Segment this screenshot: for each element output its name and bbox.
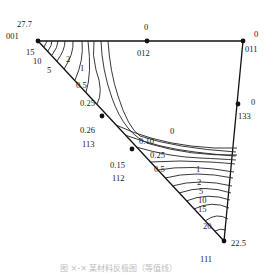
contour-label: 5: [47, 65, 51, 75]
index-133: 133: [238, 111, 251, 121]
point-012: [145, 39, 150, 44]
contour-label: 2: [66, 54, 70, 64]
contour-label: 0.25: [150, 150, 165, 160]
contour-5: [179, 189, 231, 194]
value-111: 22.5: [231, 238, 246, 248]
value-133: 0: [251, 97, 255, 107]
point-113: [100, 114, 105, 119]
contour-label: 10: [33, 56, 42, 66]
contour-label: 1: [80, 63, 84, 73]
contour-label: 0.10: [139, 136, 154, 146]
index-111: 111: [200, 254, 212, 264]
contour-label: 20: [203, 221, 212, 231]
contour-label: 1: [196, 164, 200, 174]
index-001: 001: [6, 31, 19, 41]
inverse-pole-figure: 27.7 001 0 012 0 011 0 133 0.26 113 0.15…: [0, 0, 269, 273]
point-111: [222, 239, 227, 244]
edge-001-111: [38, 41, 224, 241]
point-011: [241, 39, 246, 44]
contour-10: [186, 196, 230, 201]
contour-5: [57, 41, 65, 61]
index-011: 011: [245, 44, 257, 54]
value-001: 27.7: [17, 19, 32, 29]
contour-10: [48, 41, 52, 51]
point-112: [130, 147, 135, 152]
contour-label: 0: [170, 126, 174, 136]
index-112: 112: [112, 173, 124, 183]
value-012: 0: [144, 22, 148, 32]
contours-mid: [101, 41, 237, 160]
edge-011-111: [224, 41, 243, 241]
contour-label: 15: [198, 204, 207, 214]
contour-label: 0.25: [80, 98, 95, 108]
value-011: 0: [254, 29, 258, 39]
index-012: 012: [137, 48, 150, 58]
point-133: [236, 102, 241, 107]
contour-label: 0.5: [154, 164, 165, 174]
contour-label: 0.5: [76, 80, 87, 90]
value-113: 0.26: [80, 125, 95, 135]
index-113: 113: [82, 139, 94, 149]
value-112: 0.15: [110, 160, 125, 170]
figure-caption: 图 ×-× 某材料反极图（等值线）: [60, 263, 177, 273]
point-001: [36, 39, 41, 44]
contour-15: [44, 41, 47, 47]
contour-5a: [52, 41, 58, 55]
contours-001: [44, 41, 100, 104]
contour-0: [101, 41, 237, 155]
contour-0.25: [93, 41, 100, 104]
contour-1: [75, 41, 82, 80]
